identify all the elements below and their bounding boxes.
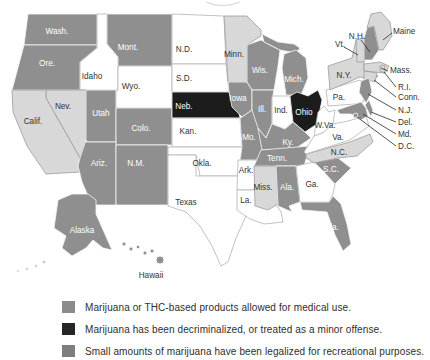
legend-swatch-recreational [62, 345, 75, 357]
hawaii-island [143, 251, 147, 255]
state-label-new-jersey: N.J. [398, 106, 413, 115]
state-label-nebraska: Neb. [175, 102, 192, 111]
state-label-minnesota: Minn. [224, 50, 244, 59]
state-label-pennsylvania: Pa. [333, 93, 345, 102]
state-label-south-dakota: S.D. [176, 74, 192, 83]
state-label-texas: Texas [175, 198, 196, 207]
state-label-washington: Wash. [46, 27, 69, 36]
legend-swatch-decriminalized [62, 323, 75, 335]
state-label-utah: Utah [92, 109, 110, 118]
state-label-dc: D.C. [398, 142, 414, 151]
state-michigan [282, 50, 308, 95]
alaska-aleutian-island [26, 268, 28, 270]
state-label-arizona: Ariz. [91, 159, 107, 168]
cropped-artifact [206, 2, 240, 6]
state-label-california: Calif. [24, 117, 43, 126]
state-label-illinois: Ill. [258, 105, 266, 114]
alaska-aleutian-island [35, 265, 37, 267]
state-label-new-york: N.Y. [337, 71, 352, 80]
state-label-oklahoma: Okla. [192, 159, 211, 168]
state-vermont [356, 38, 364, 62]
state-label-maryland: Md. [398, 130, 412, 139]
state-north-dakota [172, 14, 226, 64]
alaska-aleutian-island [43, 261, 46, 264]
state-label-north-dakota: N.D. [176, 45, 192, 54]
state-label-west-virginia: W.Va. [314, 121, 335, 130]
state-label-colorado: Colo. [131, 124, 150, 133]
state-label-alaska: Alaska [70, 226, 95, 235]
state-label-montana: Mont. [118, 43, 138, 52]
state-label-wisconsin: Wis. [252, 66, 268, 75]
state-label-rhode-island: R.I. [398, 83, 411, 92]
state-label-new-mexico: N.M. [127, 159, 144, 168]
legend-item-medical: Marijuana or THC-based products allowed … [62, 301, 351, 313]
leader-line-delaware [371, 112, 396, 122]
state-label-michigan: Mich. [284, 75, 304, 84]
state-label-vermont: Vt. [335, 40, 345, 49]
state-label-iowa: Iowa [229, 94, 247, 103]
state-label-connecticut: Conn. [398, 93, 420, 102]
alaska-aleutian-island [17, 270, 19, 272]
legend-item-recreational: Small amounts of marijuana have been leg… [62, 345, 424, 357]
state-label-idaho: Idaho [82, 72, 103, 81]
state-label-nevada: Nev. [55, 102, 71, 111]
state-label-south-carolina: S.C. [323, 165, 339, 174]
state-label-north-carolina: N.C. [331, 148, 347, 157]
hawaii-island [122, 242, 126, 246]
us-marijuana-laws-figure: Wash. Ore. Calif. Nev. Idaho Mont. Wyo. … [0, 0, 430, 360]
state-label-massachusetts: Mass. [390, 66, 412, 75]
legend-item-decriminalized: Marijuana has been decriminalized, or tr… [62, 323, 382, 335]
state-label-florida: Fla. [325, 223, 339, 232]
state-label-ohio: Ohio [295, 108, 313, 117]
state-label-missouri: Mo. [242, 133, 256, 142]
us-map: Wash. Ore. Calif. Nev. Idaho Mont. Wyo. … [0, 0, 430, 295]
state-label-delaware: Del. [398, 118, 413, 127]
hawaii-island [156, 256, 164, 264]
hawaii-island [150, 249, 154, 253]
state-new-mexico [116, 145, 168, 205]
legend-label-decriminalized: Marijuana has been decriminalized, or tr… [85, 324, 382, 335]
state-label-hawaii: Hawaii [139, 271, 164, 280]
state-label-oregon: Ore. [39, 59, 55, 68]
state-label-georgia: Ga. [305, 180, 318, 189]
state-label-arkansas: Ark. [239, 166, 254, 175]
hawaii-island [129, 247, 133, 251]
state-label-indiana: Ind. [274, 106, 288, 115]
state-label-louisiana: La. [240, 196, 251, 205]
legend-label-medical: Marijuana or THC-based products allowed … [85, 302, 351, 313]
state-label-new-hampshire: N.H. [349, 32, 365, 41]
state-label-tennessee: Tenn. [267, 154, 287, 163]
state-label-virginia: Va. [332, 133, 344, 142]
state-label-alabama: Ala. [280, 183, 294, 192]
legend-swatch-medical [62, 301, 75, 313]
state-label-wyoming: Wyo. [122, 82, 141, 91]
state-label-maine: Maine [393, 27, 416, 36]
legend-label-recreational: Small amounts of marijuana have been leg… [85, 346, 424, 357]
state-label-kentucky: Ky. [282, 138, 293, 147]
state-label-mississippi: Miss. [253, 183, 272, 192]
hawaii-island [136, 245, 140, 249]
state-label-kansas: Kan. [180, 127, 197, 136]
